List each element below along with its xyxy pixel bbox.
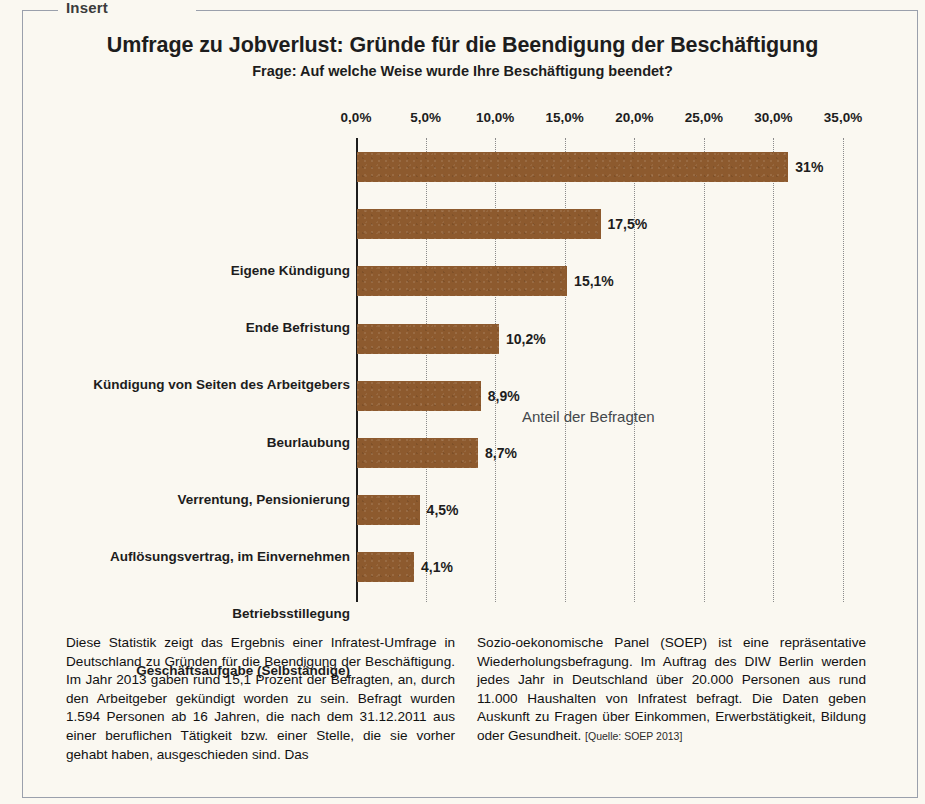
body-paragraph-left: Diese Statistik zeigt das Ergebnis einer…: [66, 634, 455, 764]
x-tick-1: 5,0%: [391, 110, 461, 125]
bar-6: [357, 495, 420, 525]
category-label-0: Eigene Kündigung: [20, 256, 350, 286]
bar-value-label-5: 8,7%: [485, 438, 517, 468]
bar-7: [357, 552, 414, 582]
bar-2: [357, 266, 567, 296]
bar-value-label-1: 17,5%: [608, 209, 648, 239]
source-citation: [Quelle: SOEP 2013]: [585, 730, 682, 742]
body-column-right: Sozio-oekonomische Panel (SOEP) ist eine…: [477, 634, 866, 764]
bar-4: [357, 381, 481, 411]
article-body: Diese Statistik zeigt das Ergebnis einer…: [66, 634, 866, 764]
gridline-7: [843, 138, 844, 602]
category-label-6: Betriebsstillegung: [20, 599, 350, 629]
frame-legend-insert: Insert: [60, 0, 114, 17]
bar-value-label-0: 31%: [795, 152, 823, 182]
bar-1: [357, 209, 601, 239]
x-tick-3: 15,0%: [530, 110, 600, 125]
x-tick-4: 20,0%: [599, 110, 669, 125]
page-subtitle: Frage: Auf welche Weise wurde Ihre Besch…: [0, 63, 925, 79]
bar-value-label-7: 4,1%: [421, 552, 453, 582]
series-legend-label: Anteil der Befragten: [522, 408, 655, 425]
category-label-3: Beurlaubung: [20, 428, 350, 458]
gridline-4: [634, 138, 635, 602]
bar-value-label-2: 15,1%: [574, 266, 614, 296]
bar-3: [357, 324, 499, 354]
gridline-1: [426, 138, 427, 602]
category-label-2: Kündigung von Seiten des Arbeitgebers: [20, 370, 350, 400]
gridline-3: [565, 138, 566, 602]
bar-value-label-6: 4,5%: [427, 495, 459, 525]
gridline-2: [495, 138, 496, 602]
body-text-right: Sozio-oekonomische Panel (SOEP) ist eine…: [477, 635, 866, 743]
x-tick-6: 30,0%: [738, 110, 808, 125]
body-paragraph-right: Sozio-oekonomische Panel (SOEP) ist eine…: [477, 634, 866, 746]
y-axis-line: [356, 138, 358, 602]
bar-0: [357, 152, 788, 182]
bar-value-label-3: 10,2%: [506, 324, 546, 354]
gridline-6: [773, 138, 774, 602]
page-title: Umfrage zu Jobverlust: Gründe für die Be…: [0, 33, 925, 58]
body-column-left: Diese Statistik zeigt das Ergebnis einer…: [66, 634, 455, 764]
x-tick-7: 35,0%: [808, 110, 878, 125]
x-tick-5: 25,0%: [669, 110, 739, 125]
x-tick-2: 10,0%: [460, 110, 530, 125]
bar-value-label-4: 8,9%: [488, 381, 520, 411]
bar-chart: 0,0%5,0%10,0%15,0%20,0%25,0%30,0%35,0% E…: [0, 104, 925, 609]
bar-5: [357, 438, 478, 468]
plot-area: 31%17,5%15,1%10,2%8,9%8,7%4,5%4,1%: [356, 138, 843, 602]
category-label-4: Verrentung, Pensionierung: [20, 485, 350, 515]
statistics-insert-page: Insert Umfrage zu Jobverlust: Gründe für…: [0, 0, 925, 804]
category-label-1: Ende Befristung: [20, 313, 350, 343]
gridline-5: [704, 138, 705, 602]
category-label-5: Auflösungsvertrag, im Einvernehmen: [20, 542, 350, 572]
x-tick-0: 0,0%: [321, 110, 391, 125]
